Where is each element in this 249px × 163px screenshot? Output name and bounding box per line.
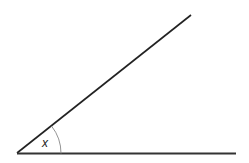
angle-figure: x <box>0 0 249 163</box>
angle-label: x <box>41 136 49 150</box>
upper-ray <box>17 15 191 153</box>
angle-diagram: x <box>0 0 249 163</box>
angle-arc <box>52 126 62 154</box>
